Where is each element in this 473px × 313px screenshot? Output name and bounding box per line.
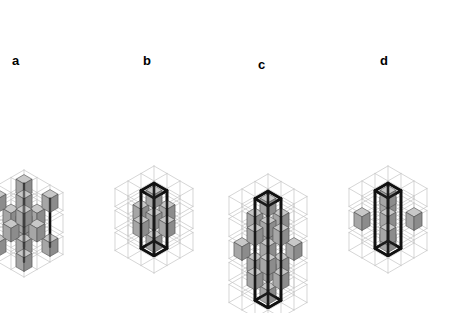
figure-canvas: abcd: [0, 0, 473, 313]
cube: [354, 208, 370, 231]
panel-d-graphic: [0, 0, 473, 313]
cube: [406, 208, 422, 231]
